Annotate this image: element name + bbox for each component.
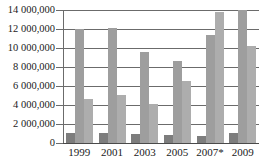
y-tick-mark <box>56 10 63 11</box>
bar-series-1-2009 <box>229 133 238 143</box>
y-tick-label: 2 000,000 <box>2 119 55 129</box>
x-tick-label: 1999 <box>63 146 96 159</box>
bar-group <box>131 10 158 143</box>
bar-series-2-2001 <box>108 28 117 143</box>
y-tick-mark <box>56 86 63 87</box>
x-axis-labels: 19992001200320052007*2009 <box>63 146 259 166</box>
bar-series-3-2009 <box>247 46 256 143</box>
y-tick-label: 0 <box>2 138 55 148</box>
plot-area <box>63 10 259 143</box>
y-tick-label: 8 000,000 <box>2 62 55 72</box>
x-axis-line <box>63 143 259 144</box>
bar-group <box>197 10 224 143</box>
x-tick-label: 2007* <box>194 146 227 159</box>
bar-series-2-2005 <box>173 61 182 143</box>
bar-chart: 14 000,000 12 000,000 10 000,000 8 000,0… <box>0 0 265 168</box>
y-tick-mark <box>56 48 63 49</box>
y-tick-label: 12 000,000 <box>2 24 55 34</box>
bar-group <box>229 10 256 143</box>
bar-series-2-2007 <box>206 35 215 143</box>
y-tick-mark <box>56 124 63 125</box>
bar-series-3-2007 <box>215 12 224 143</box>
y-tick-mark <box>56 105 63 106</box>
x-tick-label: 2005 <box>161 146 194 159</box>
y-axis-labels: 14 000,000 12 000,000 10 000,000 8 000,0… <box>0 0 55 168</box>
y-tick-label: 6 000,000 <box>2 81 55 91</box>
bar-group <box>164 10 191 143</box>
y-tick-label: 14 000,000 <box>2 5 55 15</box>
bar-series-1-2003 <box>131 134 140 143</box>
bar-series-3-2001 <box>117 95 126 143</box>
bar-group <box>66 10 93 143</box>
bar-series-1-2007 <box>197 136 206 143</box>
bar-series-1-2001 <box>99 133 108 143</box>
bar-groups <box>63 10 259 143</box>
y-tick-label: 10 000,000 <box>2 43 55 53</box>
bar-series-2-2009 <box>238 10 247 143</box>
bar-series-3-2005 <box>182 81 191 143</box>
x-tick-label: 2009 <box>226 146 259 159</box>
y-tick-label: 4 000,000 <box>2 100 55 110</box>
bar-series-3-2003 <box>149 104 158 143</box>
y-tick-mark <box>56 143 63 144</box>
y-tick-mark <box>56 67 63 68</box>
y-tick-mark <box>56 29 63 30</box>
bar-group <box>99 10 126 143</box>
bar-series-1-1999 <box>66 133 75 143</box>
bar-series-2-2003 <box>140 52 149 143</box>
x-tick-label: 2001 <box>96 146 129 159</box>
x-tick-label: 2003 <box>128 146 161 159</box>
bar-series-3-1999 <box>84 99 93 143</box>
bar-series-1-2005 <box>164 135 173 143</box>
bar-series-2-1999 <box>75 29 84 143</box>
